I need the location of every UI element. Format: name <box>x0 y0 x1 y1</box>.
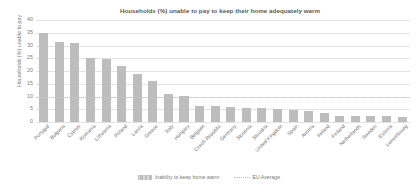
bar[interactable] <box>351 116 360 122</box>
y-axis-tick-label: 0 <box>19 118 33 124</box>
bar-slot <box>332 20 348 122</box>
bar[interactable] <box>39 33 48 122</box>
dotted-line-icon <box>234 177 250 178</box>
legend-label-eu-average: EU Average <box>253 174 281 180</box>
bar[interactable] <box>273 109 282 123</box>
bar[interactable] <box>398 117 407 122</box>
x-axis-tick-label: Ireland <box>315 123 330 138</box>
x-axis-tick-label: Lithuania <box>93 123 112 142</box>
bar-slot <box>223 20 239 122</box>
bar-slot <box>316 20 332 122</box>
y-axis-tick-label: 30 <box>19 42 33 48</box>
bar-slot <box>394 20 410 122</box>
bar[interactable] <box>320 113 329 122</box>
bar[interactable] <box>226 107 235 122</box>
bar-slot <box>98 20 114 122</box>
y-axis-tick-label: 15 <box>19 80 33 86</box>
bar-slot <box>239 20 255 122</box>
bar[interactable] <box>382 116 391 122</box>
bar[interactable] <box>195 106 204 122</box>
bar[interactable] <box>366 116 375 122</box>
x-axis-tick-label: Italy <box>164 123 175 134</box>
y-axis-tick-label: 35 <box>19 29 33 35</box>
y-axis-tick-label: 5 <box>19 105 33 111</box>
chart-title: Households (%) unable to pay to keep the… <box>60 7 380 14</box>
bar-series <box>36 20 410 122</box>
y-axis-tick-label: 25 <box>19 54 33 60</box>
x-axis-tick-label: Austria <box>299 123 314 138</box>
x-axis-tick-label: Spain <box>286 123 299 136</box>
bar[interactable] <box>117 66 126 122</box>
bar-swatch-icon <box>138 175 152 180</box>
y-axis-tick-label: 20 <box>19 67 33 73</box>
x-axis-tick-label: Hungary <box>172 123 190 141</box>
bar-slot <box>83 20 99 122</box>
bar-slot <box>254 20 270 122</box>
x-axis-tick-label: Bulgaria <box>48 123 65 140</box>
bar[interactable] <box>133 74 142 122</box>
bar-slot <box>348 20 364 122</box>
bar-slot <box>285 20 301 122</box>
bar-slot <box>270 20 286 122</box>
bar[interactable] <box>289 110 298 122</box>
bar[interactable] <box>242 108 251 122</box>
bar-slot <box>301 20 317 122</box>
bar[interactable] <box>179 96 188 122</box>
bar-slot <box>161 20 177 122</box>
eu-average-reference-line <box>36 97 410 98</box>
bar-slot <box>114 20 130 122</box>
x-axis-tick-label: Sweden <box>360 123 377 140</box>
x-axis-tick-label: Latvia <box>130 123 144 137</box>
bar[interactable] <box>102 59 111 122</box>
x-axis-tick-label: Greece <box>143 123 159 139</box>
bar-slot <box>363 20 379 122</box>
y-axis-tick-label: 40 <box>19 16 33 22</box>
bar[interactable] <box>148 81 157 122</box>
bar[interactable] <box>335 116 344 122</box>
legend-item-inability: Inability to keep home warm <box>138 174 220 180</box>
y-axis-tick-label: 10 <box>19 93 33 99</box>
x-axis-tick-label: Poland <box>112 123 127 138</box>
bar-slot <box>145 20 161 122</box>
bar-slot <box>129 20 145 122</box>
x-axis-labels: PortugalBulgariaCyprusRomaniaLithuaniaPo… <box>36 123 410 177</box>
bar[interactable] <box>55 42 64 122</box>
chart-container: Households (%) unable to pay to keep the… <box>0 0 418 192</box>
x-axis-tick-label: Portugal <box>32 123 50 141</box>
bar-slot <box>176 20 192 122</box>
legend-label-inability: Inability to keep home warm <box>155 174 220 180</box>
plot-area: 0510152025303540 <box>36 20 410 122</box>
bar[interactable] <box>304 111 313 122</box>
bar[interactable] <box>211 106 220 122</box>
bar[interactable] <box>70 43 79 122</box>
bar-slot <box>36 20 52 122</box>
chart-legend: Inability to keep home warm EU Average <box>0 174 418 180</box>
bar-slot <box>67 20 83 122</box>
bar-slot <box>207 20 223 122</box>
bar-slot <box>52 20 68 122</box>
x-axis-tick-label: Slovenia <box>235 123 253 141</box>
bar[interactable] <box>164 94 173 122</box>
bar-slot <box>192 20 208 122</box>
bar-slot <box>379 20 395 122</box>
bar[interactable] <box>86 58 95 122</box>
bar[interactable] <box>257 108 266 122</box>
legend-item-eu-average: EU Average <box>234 174 281 180</box>
